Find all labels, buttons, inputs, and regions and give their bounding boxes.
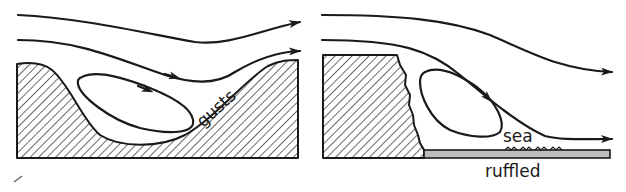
sea-surface (424, 150, 610, 158)
right-panel: sea ruffled (322, 15, 612, 181)
left-panel: gusts (14, 15, 300, 182)
airflow-diagram: gusts sea ruffled (0, 0, 626, 192)
sea-label: sea (503, 126, 533, 146)
eddy-loop (420, 70, 502, 137)
pen-mark (14, 176, 22, 182)
valley-terrain (17, 60, 298, 158)
upper-streamline (18, 15, 300, 43)
ruffled-label: ruffled (485, 161, 540, 181)
eddy-loop (78, 74, 193, 132)
eddy-arrow-icon (480, 90, 488, 98)
cliff-terrain (323, 55, 424, 158)
